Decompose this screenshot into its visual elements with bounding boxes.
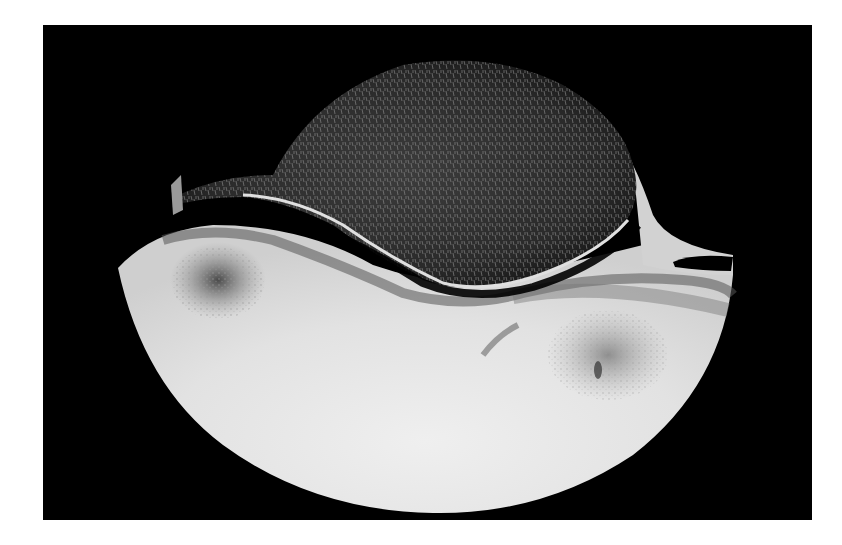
bone-cross-section-image <box>43 25 812 520</box>
radiograph-panel: Grayscale axial radiographic cross-secti… <box>43 25 812 520</box>
